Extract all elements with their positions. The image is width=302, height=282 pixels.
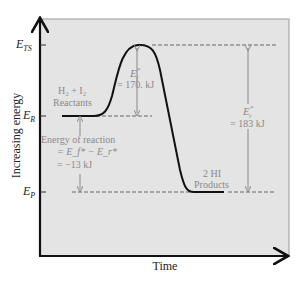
forward-activation-value: = 170. kJ	[117, 79, 154, 90]
reverse-activation-value: = 183 kJ	[228, 118, 267, 129]
reaction-energy-formula: = E_f* − E_r*	[57, 146, 117, 157]
x-axis-label: Time	[150, 259, 180, 274]
level-label-ets: E_TSETS	[16, 37, 32, 53]
products-formula: 2 HI	[203, 168, 221, 179]
y-axis-label: Increasing energy	[9, 86, 24, 186]
reactants-label: Reactants	[53, 97, 92, 108]
level-label-er: E_RER	[23, 108, 35, 124]
reaction-energy-value: = −13 kJ	[57, 159, 92, 170]
level-label-ep: E_PEP	[23, 184, 35, 200]
reactants-formula: H₂ + I₂	[58, 85, 86, 96]
energy-diagram: Increasing energy Time E_TSETS E_RER E_P…	[0, 0, 302, 282]
products-label: Products	[194, 179, 229, 190]
reaction-energy-title: Energy of reaction	[41, 134, 115, 145]
